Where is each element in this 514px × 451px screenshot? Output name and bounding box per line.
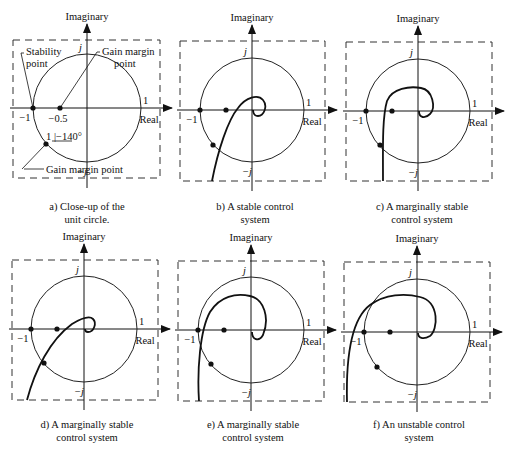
label-minus-j: −j bbox=[242, 166, 252, 177]
stability-point-marker bbox=[195, 327, 200, 332]
phase-margin-point-marker bbox=[41, 360, 46, 365]
caption-b: b) A stable controlsystem bbox=[180, 200, 330, 226]
gain-margin-point-marker bbox=[389, 108, 394, 113]
label-minus-one: −1 bbox=[19, 112, 30, 123]
label-j: j bbox=[241, 265, 246, 276]
gain-margin-point-label-line2: point bbox=[114, 58, 136, 69]
caption-line: c) A marginally stable bbox=[347, 200, 497, 213]
nyquist-curve bbox=[347, 295, 436, 402]
stability-point-label-line2: point bbox=[26, 58, 48, 69]
phase-angle-label: 1 |−140° bbox=[46, 131, 82, 142]
label-one: 1 bbox=[306, 97, 311, 108]
imaginary-axis-label: Imaginary bbox=[62, 231, 106, 242]
label-j: j bbox=[74, 264, 79, 275]
phase-margin-point-marker bbox=[374, 364, 379, 369]
caption-f: f) An unstable controlsystem bbox=[344, 418, 494, 444]
stability-point-marker bbox=[28, 326, 33, 331]
imaginary-axis-label: Imaginary bbox=[396, 13, 440, 24]
imaginary-axis-label: Imaginary bbox=[230, 12, 274, 23]
panel-e: ImaginaryReal1−1j−j bbox=[175, 232, 336, 411]
label-j: j bbox=[242, 46, 247, 57]
nyquist-curve bbox=[198, 295, 266, 401]
caption-line: a) Close-up of the bbox=[12, 200, 162, 213]
label-minus-one: −1 bbox=[184, 334, 195, 345]
label-j: j bbox=[77, 42, 82, 53]
gain-margin-point-marker bbox=[387, 329, 392, 334]
gain-margin-point-marker bbox=[223, 107, 228, 112]
stability-point-marker bbox=[361, 329, 366, 334]
panel-d: ImaginaryReal1−1j−j bbox=[9, 231, 170, 410]
caption-c: c) A marginally stablecontrol system bbox=[347, 200, 497, 226]
label-minus-j: −j bbox=[408, 167, 418, 178]
gain-margin-leader-top bbox=[60, 52, 100, 108]
phase-margin-point-marker bbox=[208, 361, 213, 366]
label-one: 1 bbox=[472, 319, 477, 330]
label-one: 1 bbox=[306, 317, 311, 328]
caption-line: control system bbox=[178, 431, 328, 444]
caption-line: control system bbox=[347, 213, 497, 226]
label-minus-j: −j bbox=[407, 389, 417, 400]
imaginary-axis-label: Imaginary bbox=[229, 232, 273, 243]
phase-margin-point-marker bbox=[377, 142, 382, 147]
label-minus-one: −1 bbox=[17, 333, 28, 344]
nyquist-curve bbox=[27, 318, 95, 400]
stability-point-marker bbox=[363, 108, 368, 113]
real-axis-label: Real bbox=[302, 116, 321, 127]
label-minus-j: −j bbox=[241, 387, 251, 398]
phase-margin-point-marker bbox=[43, 141, 48, 146]
gain-margin-point-bottom-label: Gain margin point bbox=[46, 164, 123, 175]
real-axis-label: Real bbox=[139, 114, 158, 125]
label-j: j bbox=[407, 267, 412, 278]
label-one: 1 bbox=[143, 95, 148, 106]
gain-margin-point-marker bbox=[54, 326, 59, 331]
caption-line: f) An unstable control bbox=[344, 418, 494, 431]
label-minus-j: −j bbox=[74, 386, 84, 397]
caption-e: e) A marginally stablecontrol system bbox=[178, 418, 328, 444]
imaginary-axis-label: Imaginary bbox=[65, 11, 109, 22]
label-minus-half: −0.5 bbox=[48, 113, 67, 124]
gain-margin-point-marker bbox=[221, 327, 226, 332]
panel-b: ImaginaryReal1−1j−j bbox=[177, 12, 337, 191]
real-axis-label: Real bbox=[468, 338, 487, 349]
real-axis-label: Real bbox=[135, 335, 154, 346]
stability-point-label: Stability bbox=[26, 46, 62, 57]
gain-margin-point-label: Gain margin bbox=[102, 46, 155, 57]
caption-line: system bbox=[344, 431, 494, 444]
panel-f: ImaginaryReal1−1j−j bbox=[341, 233, 502, 412]
phase-margin-point-marker bbox=[210, 142, 215, 147]
caption-d: d) A marginally stablecontrol system bbox=[12, 418, 162, 444]
caption-line: unit circle. bbox=[12, 213, 162, 226]
panel-c: ImaginaryReal1−1j−j bbox=[343, 13, 504, 191]
gain-margin-leader-bottom bbox=[22, 146, 44, 169]
label-minus-one: −1 bbox=[186, 114, 197, 125]
imaginary-axis-label: Imaginary bbox=[395, 233, 439, 244]
label-one: 1 bbox=[472, 98, 477, 109]
caption-line: e) A marginally stable bbox=[178, 418, 328, 431]
stability-point-marker bbox=[197, 107, 202, 112]
panel-a: ImaginaryReal1−1j−jStabilitypointGain ma… bbox=[10, 11, 172, 188]
label-j: j bbox=[408, 47, 413, 58]
caption-line: control system bbox=[12, 431, 162, 444]
real-axis-label: Real bbox=[468, 117, 487, 128]
caption-line: system bbox=[180, 213, 330, 226]
label-minus-one: −1 bbox=[352, 115, 363, 126]
caption-line: d) A marginally stable bbox=[12, 418, 162, 431]
caption-a: a) Close-up of theunit circle. bbox=[12, 200, 162, 226]
label-one: 1 bbox=[139, 316, 144, 327]
real-axis-label: Real bbox=[302, 336, 321, 347]
caption-line: b) A stable control bbox=[180, 200, 330, 213]
